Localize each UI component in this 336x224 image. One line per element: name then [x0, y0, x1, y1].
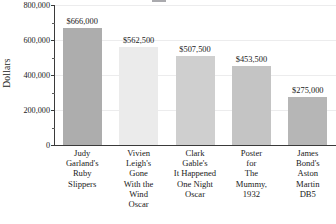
- category-label-line: Ruby: [54, 168, 110, 178]
- category-label-line: Oscar: [167, 189, 223, 199]
- category-label-line: Clark: [167, 148, 223, 158]
- bar-value-label: $507,500: [179, 45, 210, 54]
- x-axis-category-label: VivienLeigh'sGoneWith theWindOscar: [110, 148, 166, 209]
- category-label-line: Gable's: [167, 158, 223, 168]
- x-axis-category-label: ClarkGable'sIt HappenedOne NightOscar: [167, 148, 223, 199]
- bar[interactable]: $275,000: [288, 97, 327, 145]
- category-label-line: DB5: [280, 189, 336, 199]
- x-axis-category-labels: JudyGarland'sRubySlippersVivienLeigh'sGo…: [54, 148, 336, 224]
- category-label-line: Wind: [110, 189, 166, 199]
- y-axis-tick-label: 0: [46, 141, 50, 150]
- y-axis-minor-tick: [52, 128, 55, 129]
- cropped-title-remnant: [152, 0, 166, 2]
- y-axis-tick-label: 600,000: [23, 36, 50, 45]
- category-label-line: Leigh's: [110, 158, 166, 168]
- category-label-line: for: [223, 158, 279, 168]
- category-label-line: The: [223, 168, 279, 178]
- bar-value-label: $453,500: [236, 55, 267, 64]
- category-label-line: Martin: [280, 179, 336, 189]
- y-axis-minor-tick: [52, 23, 55, 24]
- y-axis-tick: [51, 75, 55, 76]
- y-axis-tick: [51, 5, 55, 6]
- x-axis-baseline: [54, 145, 336, 146]
- category-label-line: Bond's: [280, 158, 336, 168]
- y-axis-tick: [51, 40, 55, 41]
- category-label-line: It Happened: [167, 168, 223, 178]
- y-axis-tick: [51, 110, 55, 111]
- category-label-line: Slippers: [54, 179, 110, 189]
- category-label-line: Mummy,: [223, 179, 279, 189]
- bar[interactable]: $507,500: [176, 56, 215, 145]
- category-label-line: Poster: [223, 148, 279, 158]
- category-label-line: 1932: [223, 189, 279, 199]
- category-label-line: Aston: [280, 168, 336, 178]
- bar[interactable]: $562,500: [119, 47, 158, 145]
- bar-value-label: $666,000: [66, 17, 97, 26]
- bar[interactable]: $453,500: [232, 66, 271, 145]
- category-label-line: One Night: [167, 179, 223, 189]
- category-label-line: With the: [110, 179, 166, 189]
- y-axis-title-text: Dollars: [2, 58, 12, 87]
- category-label-line: Gone: [110, 168, 166, 178]
- category-label-line: James: [280, 148, 336, 158]
- category-label-line: Oscar: [110, 199, 166, 209]
- x-axis-category-label: JamesBond'sAstonMartinDB5: [280, 148, 336, 199]
- y-axis-minor-tick: [52, 58, 55, 59]
- y-axis-tick: [51, 145, 55, 146]
- category-label-line: Vivien: [110, 148, 166, 158]
- y-axis-tick-labels: 0200,000400,000600,000800,000: [12, 0, 54, 150]
- gridline: [55, 5, 336, 6]
- y-axis-tick-label: 200,000: [23, 106, 50, 115]
- bar-value-label: $275,000: [292, 86, 323, 95]
- y-axis-minor-tick: [52, 93, 55, 94]
- y-axis-tick-label: 400,000: [23, 71, 50, 80]
- category-label-line: Garland's: [54, 158, 110, 168]
- bar[interactable]: $666,000: [63, 28, 102, 145]
- plot-area: $666,000$562,500$507,500$453,500$275,000: [54, 5, 336, 145]
- x-axis-category-label: JudyGarland'sRubySlippers: [54, 148, 110, 189]
- x-axis-category-label: PosterforTheMummy,1932: [223, 148, 279, 199]
- chart-screenshot: Dollars 0200,000400,000600,000800,000 $6…: [0, 0, 336, 224]
- y-axis-tick-label: 800,000: [23, 1, 50, 10]
- bar-value-label: $562,500: [123, 36, 154, 45]
- category-label-line: Judy: [54, 148, 110, 158]
